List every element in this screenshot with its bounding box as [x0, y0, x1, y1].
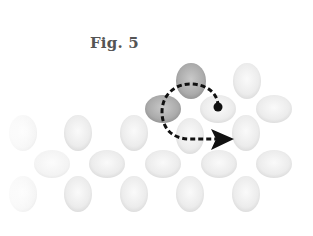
atom	[233, 63, 261, 99]
atom	[120, 115, 148, 151]
atom	[232, 176, 260, 212]
atom	[256, 95, 292, 123]
atom	[145, 150, 181, 178]
atom	[176, 176, 204, 212]
start-dot-icon	[214, 103, 223, 112]
atom	[201, 150, 237, 178]
atom	[176, 118, 204, 154]
lattice-diagram	[0, 0, 313, 236]
atom	[232, 115, 260, 151]
highlighted-atoms	[145, 63, 206, 123]
fade-overlay	[0, 110, 120, 220]
upper-layer	[200, 63, 292, 123]
atom	[120, 176, 148, 212]
highlighted-atom-top	[176, 63, 206, 99]
atom	[256, 150, 292, 178]
